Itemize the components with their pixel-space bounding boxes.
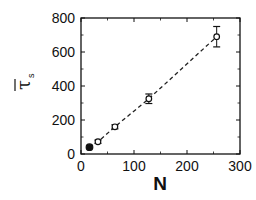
open-circle-marker bbox=[112, 124, 118, 130]
x-tick-label: 0 bbox=[77, 158, 85, 174]
y-tick-label: 400 bbox=[52, 78, 76, 94]
y-axis-label-symbol: τ bbox=[13, 80, 34, 90]
x-tick-label: 100 bbox=[122, 158, 146, 174]
data-markers bbox=[86, 34, 219, 151]
scatter-chart: 0100200300 0200400600800 N τ s bbox=[0, 0, 256, 200]
dashed-series-line bbox=[89, 37, 216, 148]
x-tick-label: 200 bbox=[175, 158, 199, 174]
y-tick-label: 0 bbox=[67, 146, 75, 162]
open-circle-marker bbox=[95, 139, 101, 145]
filled-circle-marker bbox=[86, 144, 93, 151]
y-tick-label: 800 bbox=[52, 10, 76, 26]
y-tick-label: 200 bbox=[52, 112, 76, 128]
y-tick-labels: 0200400600800 bbox=[52, 10, 76, 162]
y-tick-label: 600 bbox=[52, 44, 76, 60]
x-tick-label: 300 bbox=[228, 158, 252, 174]
x-tick-labels: 0100200300 bbox=[77, 158, 252, 174]
y-axis-label: τ s bbox=[13, 73, 36, 91]
x-axis-label: N bbox=[153, 173, 167, 194]
y-axis-label-subscript: s bbox=[26, 73, 36, 78]
open-circle-marker bbox=[214, 34, 220, 40]
dashed-trend-line bbox=[89, 37, 216, 148]
open-circle-marker bbox=[146, 96, 152, 102]
